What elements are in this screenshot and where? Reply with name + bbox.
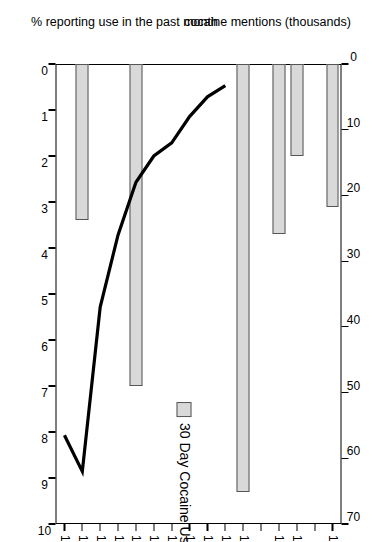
ticklabel-bar-axis-0: 0	[41, 64, 48, 78]
yearlabel-1984: 1984	[146, 535, 160, 542]
tick-year-1988	[81, 524, 82, 531]
tick-year-1983	[171, 524, 172, 531]
tick-bar-axis-9	[48, 477, 55, 478]
tick-bar-axis-1	[48, 109, 55, 110]
tick-bar-axis-8	[48, 431, 55, 432]
tick-year-1985	[135, 524, 136, 531]
tick-year-1977	[278, 524, 279, 531]
right-axis-title: % reporting use in the past month	[30, 15, 217, 29]
chart-legend: 30 Day Cocaine Use Emer. Room Mentions	[176, 402, 192, 542]
tick-year-1987	[99, 524, 100, 531]
tick-bar-axis-7	[48, 385, 55, 386]
tick-year-1978	[260, 524, 261, 531]
ticklabel-line-axis-20: 20	[346, 181, 359, 195]
tick-bar-axis-5	[48, 293, 55, 294]
yearlabel-1986: 1986	[111, 535, 125, 542]
ticklabel-line-axis-10: 10	[346, 116, 359, 130]
yearlabel-1980: 1980	[218, 535, 232, 542]
ticklabel-bar-axis-3: 3	[41, 202, 48, 216]
yearlabel-1987: 1987	[93, 535, 107, 542]
ticklabel-bar-axis-2: 2	[41, 156, 48, 170]
tick-year-1979	[242, 524, 243, 531]
ticklabel-line-axis-50: 50	[346, 379, 359, 393]
tick-bar-axis-2	[48, 155, 55, 156]
ticklabel-bar-axis-10: 10	[37, 524, 50, 538]
yearlabel-1979: 1979	[236, 535, 250, 542]
ticklabel-line-axis-0: 0	[350, 50, 357, 64]
yearlabel-1988: 1988	[75, 535, 89, 542]
yearlabel-1989: 1989	[57, 535, 71, 542]
rotated-figure-container: 0102030405060700123456789101974197619771…	[0, 0, 385, 542]
line-series-emer-room-mentions	[55, 64, 341, 524]
yearlabel-1976: 1976	[289, 535, 303, 542]
ticklabel-bar-axis-6: 6	[41, 340, 48, 354]
ticklabel-bar-axis-7: 7	[41, 386, 48, 400]
tick-year-1980	[224, 524, 225, 531]
ticklabel-line-axis-30: 30	[346, 247, 359, 261]
tick-bar-axis-3	[48, 201, 55, 202]
legend-bar-swatch-icon	[176, 402, 191, 417]
tick-year-1981	[206, 524, 207, 531]
ticklabel-line-axis-70: 70	[346, 510, 359, 524]
tick-line-axis-0	[341, 63, 348, 64]
yearlabel-1974: 1974	[325, 535, 339, 542]
tick-year-1989	[63, 524, 64, 531]
tick-year-1986	[117, 524, 118, 531]
chart-figure: 0102030405060700123456789101974197619771…	[0, 0, 385, 542]
ticklabel-bar-axis-5: 5	[41, 294, 48, 308]
ticklabel-line-axis-40: 40	[346, 313, 359, 327]
tick-year-1976	[296, 524, 297, 531]
tick-line-axis-20	[341, 195, 348, 196]
tick-bar-axis-0	[48, 63, 55, 64]
ticklabel-bar-axis-9: 9	[41, 478, 48, 492]
yearlabel-1981: 1981	[200, 535, 214, 542]
tick-year-1984	[153, 524, 154, 531]
tick-bar-axis-6	[48, 339, 55, 340]
tick-bar-axis-4	[48, 247, 55, 248]
ticklabel-bar-axis-8: 8	[41, 432, 48, 446]
yearlabel-1985: 1985	[128, 535, 142, 542]
legend-bar-label: 30 Day Cocaine Use	[176, 423, 192, 542]
ticklabel-bar-axis-4: 4	[41, 248, 48, 262]
yearlabel-1977: 1977	[271, 535, 285, 542]
tick-year-1975	[314, 524, 315, 531]
ticklabel-bar-axis-1: 1	[41, 110, 48, 124]
ticklabel-line-axis-60: 60	[346, 444, 359, 458]
tick-year-1974	[331, 524, 332, 531]
